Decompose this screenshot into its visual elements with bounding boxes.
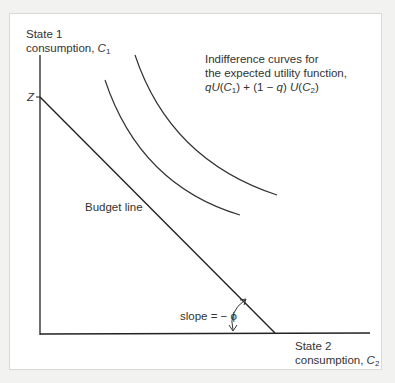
curves-label: Indifference curves for the expected uti… [205, 52, 347, 98]
x-axis [40, 333, 370, 334]
budget-line-label: Budget line [85, 200, 143, 214]
indifference-curve-inner [105, 80, 240, 215]
utility-formula: qU(C1) + (1 − q) U(C2) [205, 80, 347, 98]
slope-label: slope = − ϕ [180, 309, 237, 323]
intercept-label: Z [27, 90, 34, 104]
y-axis-label: State 1 consumption, C1 [26, 27, 110, 59]
x-axis-label: State 2 consumption, C2 [295, 339, 379, 371]
